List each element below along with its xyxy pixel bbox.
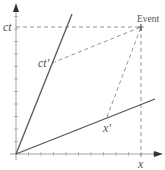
ct-label: ct xyxy=(3,20,12,34)
event-label: Event xyxy=(137,14,160,24)
spacetime-diagram: ct x ct' x' Event xyxy=(0,0,165,170)
ct-axis-arrow-icon xyxy=(13,3,19,12)
x-prime-axis xyxy=(16,99,155,154)
diagram-canvas: ct x ct' x' Event xyxy=(0,0,165,170)
ct-prime-label: ct' xyxy=(38,56,50,70)
ct-prime-axis xyxy=(16,14,72,154)
x-axis-arrow-icon xyxy=(154,151,163,157)
ct-prime-projection-line xyxy=(52,27,141,63)
x-prime-projection-line xyxy=(107,27,141,117)
x-prime-label: x' xyxy=(102,121,111,135)
x-label: x xyxy=(137,157,144,170)
